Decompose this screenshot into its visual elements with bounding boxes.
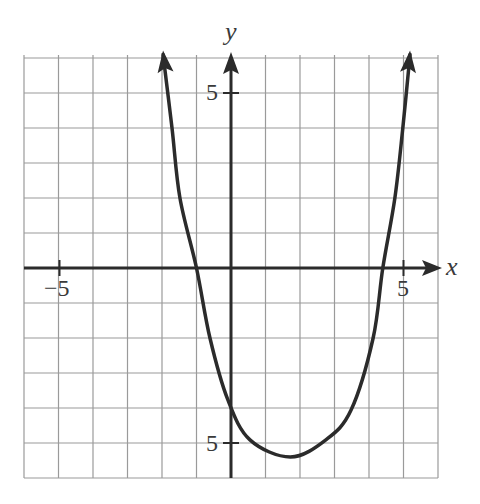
y-axis-label: y [222, 17, 237, 46]
x-tick-label-pos5: 5 [397, 275, 409, 301]
parabola-curve [163, 55, 410, 458]
parabola-graph: y x −5 5 5 5 [0, 0, 480, 504]
y-tick-label-pos5: 5 [206, 79, 218, 105]
x-tick-label-neg5: −5 [44, 275, 70, 301]
y-tick-label-neg5: 5 [206, 430, 218, 456]
x-axis-label: x [445, 252, 458, 281]
